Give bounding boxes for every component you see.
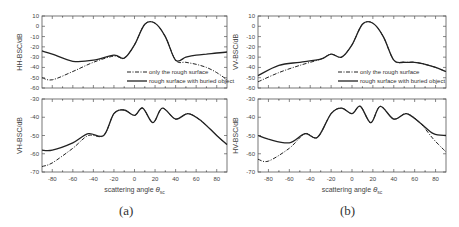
x-axis-label: scattering angle θsc [104,185,165,195]
x-tick-label: -40 [306,176,315,182]
y-tick-label: -30 [246,96,255,102]
series-buried-object [42,22,227,62]
y-tick-label: -10 [246,34,255,40]
x-tick-label: 0 [133,176,137,182]
y-tick-label: 10 [32,13,39,19]
legend-label: only the rough surface [149,69,209,75]
y-tick-label: -30 [30,54,39,60]
y-tick-label: 0 [36,23,40,29]
y-tick-label: -20 [246,44,255,50]
x-tick-label: -40 [89,176,98,182]
x-tick-label: -20 [327,176,336,182]
x-tick-label: -60 [68,176,77,182]
x-tick-label: -20 [110,176,119,182]
x-tick-label: -60 [285,176,294,182]
y-axis-label: VV-BSC/dB [232,34,239,71]
y-tick-label: -50 [30,75,39,81]
y-tick-label: 0 [252,23,256,29]
x-tick-label: 40 [390,176,397,182]
y-tick-label: -10 [30,34,39,40]
x-axis-label: scattering angle θsc [322,185,383,195]
series-buried-object [42,108,227,151]
y-tick-label: -60 [246,151,255,157]
caption-b: (b) [340,203,355,219]
y-tick-label: -20 [30,44,39,50]
legend-label: rough surface with buried object [360,78,445,84]
y-tick-label: -70 [30,169,39,175]
y-axis-label: VH-BSC/dB [16,117,23,154]
x-tick-label: 60 [411,176,418,182]
x-tick-label: -80 [48,176,57,182]
x-tick-label: 60 [193,176,200,182]
x-tick-label: 80 [432,176,439,182]
plot-frame [42,99,227,172]
y-tick-label: -30 [30,96,39,102]
caption-a: (a) [119,203,133,219]
y-tick-label: -60 [30,151,39,157]
y-tick-label: -40 [246,114,255,120]
series-rough-surface [42,108,227,167]
series-buried-object [258,22,446,76]
y-tick-label: -60 [246,85,255,91]
y-tick-label: -50 [246,133,255,139]
y-tick-label: -50 [246,75,255,81]
series-rough-surface [258,106,446,162]
x-tick-label: 40 [172,176,179,182]
y-tick-label: -30 [246,54,255,60]
x-tick-label: 20 [152,176,159,182]
y-tick-label: -70 [246,169,255,175]
plot-frame [258,99,446,172]
legend-label: only the rough surface [360,69,420,75]
y-axis-label: HH-BSC/dB [16,33,23,71]
x-tick-label: 20 [370,176,377,182]
y-tick-label: -40 [246,64,255,70]
y-tick-label: 10 [248,13,255,19]
y-tick-label: -40 [30,64,39,70]
series-buried-object [258,106,446,143]
y-axis-label: HV-BSC/dB [232,117,239,154]
y-tick-label: -60 [30,85,39,91]
y-tick-label: -40 [30,114,39,120]
x-tick-label: -80 [264,176,273,182]
legend-label: rough surface with buried object [149,78,234,84]
x-tick-label: 80 [213,176,220,182]
y-tick-label: -50 [30,133,39,139]
x-tick-label: 0 [350,176,354,182]
figure-canvas: 100-10-20-30-40-50-60HH-BSC/dBonly the r… [0,0,459,227]
